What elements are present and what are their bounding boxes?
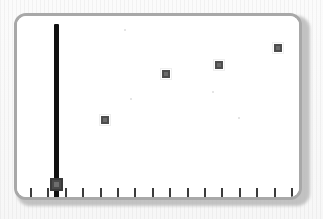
x-axis-tick xyxy=(65,188,67,197)
scatter-point-marker[interactable] xyxy=(213,59,225,71)
x-axis-tick xyxy=(117,188,119,197)
slider-track[interactable] xyxy=(54,24,59,200)
x-axis-tick xyxy=(187,188,189,197)
x-axis-tick xyxy=(82,188,84,197)
x-axis-tick xyxy=(274,188,276,197)
scatter-point-ring xyxy=(274,44,282,52)
x-axis-tick xyxy=(30,188,32,197)
slider-thumb-core xyxy=(54,182,59,187)
x-axis-tick xyxy=(256,188,258,197)
background-speck xyxy=(238,117,240,119)
x-axis-tick xyxy=(169,188,171,197)
plot-surface[interactable] xyxy=(17,16,299,197)
scatter-point-marker[interactable] xyxy=(160,68,172,80)
x-axis-tick xyxy=(291,188,293,197)
slider-scatter-widget: Vertical slider with scatter plot xyxy=(0,0,323,219)
scatter-point-marker[interactable] xyxy=(99,114,111,126)
x-axis-tick xyxy=(100,188,102,197)
x-axis-tick xyxy=(239,188,241,197)
background-speck xyxy=(130,98,132,100)
background-speck xyxy=(124,29,126,31)
x-axis-tick xyxy=(152,188,154,197)
scatter-point-marker[interactable] xyxy=(272,42,284,54)
background-speck xyxy=(212,91,214,93)
slider-thumb[interactable] xyxy=(50,178,63,191)
x-axis-tick xyxy=(204,188,206,197)
scatter-point-ring xyxy=(101,116,109,124)
scatter-point-ring xyxy=(162,70,170,78)
scatter-point-ring xyxy=(215,61,223,69)
plot-panel xyxy=(14,13,302,200)
x-axis-tick xyxy=(134,188,136,197)
x-axis-tick xyxy=(221,188,223,197)
